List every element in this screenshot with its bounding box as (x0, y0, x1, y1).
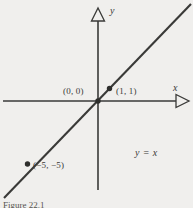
point-origin (95, 98, 100, 103)
point-label-one-one: (1, 1) (116, 87, 137, 96)
point-one-one (107, 86, 112, 91)
coordinate-plane-graphic (0, 0, 193, 208)
point-label-neg-five-neg-five: (−5, −5) (33, 161, 64, 170)
x-axis-label: x (173, 83, 177, 93)
equation-label: y = x (135, 148, 158, 158)
point-neg-five-neg-five (25, 161, 30, 166)
figure-container: y x (0, 0) (1, 1) (−5, −5) y = x Figure … (0, 0, 193, 208)
y-axis-arrowhead-icon (92, 8, 105, 21)
point-label-origin: (0, 0) (63, 87, 84, 96)
figure-caption: Figure 22.1 (3, 200, 45, 208)
y-axis-label: y (110, 6, 114, 16)
x-axis-arrowhead-icon (176, 95, 189, 108)
